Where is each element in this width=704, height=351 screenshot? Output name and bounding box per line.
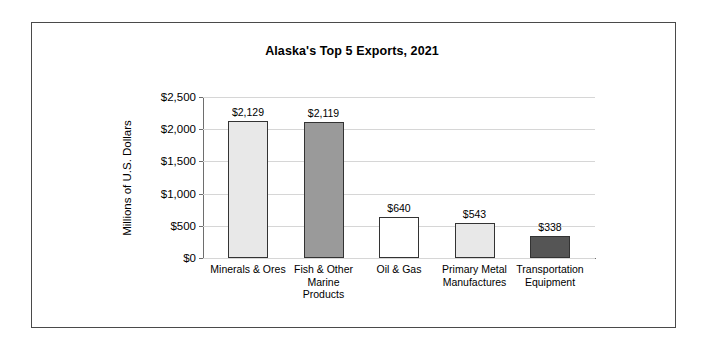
bar-3: $640 bbox=[379, 217, 419, 258]
bar-value-label: $2,129 bbox=[232, 106, 264, 118]
y-tick-label: $500 bbox=[170, 220, 196, 232]
chart-title: Alaska's Top 5 Exports, 2021 bbox=[0, 44, 704, 58]
x-category-label: Fish & Other Marine Products bbox=[286, 263, 362, 301]
y-tick-mark bbox=[199, 161, 203, 162]
y-tick-label: $2,000 bbox=[161, 123, 196, 135]
chart-figure: Alaska's Top 5 Exports, 2021 Millions of… bbox=[0, 0, 704, 351]
x-category-label: Primary Metal Manufactures bbox=[437, 263, 513, 288]
y-tick-mark bbox=[199, 194, 203, 195]
x-category-label: Oil & Gas bbox=[361, 263, 437, 276]
bar-1: $2,129 bbox=[228, 121, 268, 258]
y-tick-label: $2,500 bbox=[161, 91, 196, 103]
y-tick-mark bbox=[199, 97, 203, 98]
x-category-label: Transportation Equipment bbox=[512, 263, 588, 288]
y-tick-label: $0 bbox=[183, 252, 196, 264]
y-tick-mark bbox=[199, 258, 203, 259]
y-tick-mark bbox=[199, 129, 203, 130]
y-gridline bbox=[203, 97, 595, 98]
bar-2: $2,119 bbox=[304, 122, 344, 258]
y-tick-label: $1,500 bbox=[161, 155, 196, 167]
bar-4: $543 bbox=[455, 223, 495, 258]
x-category-label: Minerals & Ores bbox=[210, 263, 286, 276]
y-tick-label: $1,000 bbox=[161, 188, 196, 200]
bar-value-label: $640 bbox=[387, 202, 410, 214]
bar-value-label: $543 bbox=[463, 208, 486, 220]
bar-value-label: $338 bbox=[538, 221, 561, 233]
bar-value-label: $2,119 bbox=[308, 107, 339, 119]
bar-5: $338 bbox=[530, 236, 570, 258]
y-tick-mark bbox=[199, 226, 203, 227]
y-gridline bbox=[203, 258, 595, 259]
plot-area: $0$500$1,000$1,500$2,000$2,500$2,129$2,1… bbox=[203, 97, 595, 258]
y-axis-title: Millions of U.S. Dollars bbox=[121, 120, 133, 236]
